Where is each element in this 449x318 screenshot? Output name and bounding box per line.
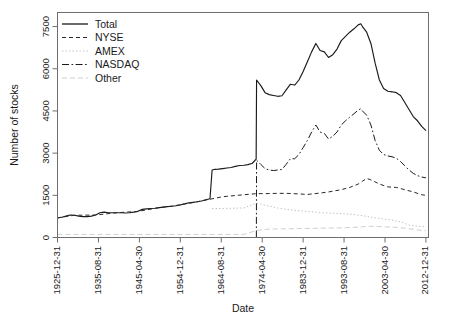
series-amex: [212, 203, 426, 227]
x-axis: 1925-12-311935-08-311945-04-301954-12-31…: [51, 238, 430, 295]
x-tick-label: 1954-12-31: [174, 246, 185, 295]
chart-figure: 015003000450060007500 1925-12-311935-08-…: [0, 0, 449, 318]
x-axis-title: Date: [232, 302, 254, 314]
y-axis-title: Number of stocks: [8, 84, 20, 166]
y-tick-label: 7500: [40, 16, 51, 37]
x-tick-label: 1925-12-31: [51, 246, 62, 295]
legend-label-nasdaq: NASDAQ: [95, 58, 139, 70]
legend-label-other: Other: [95, 72, 122, 84]
x-tick-label: 1974-04-30: [256, 246, 267, 295]
x-tick-label: 1993-08-31: [338, 246, 349, 295]
legend-label-nyse: NYSE: [95, 31, 124, 43]
x-tick-label: 2012-12-31: [419, 246, 430, 295]
y-tick-label: 3000: [40, 143, 51, 164]
x-tick-label: 1964-08-31: [215, 246, 226, 295]
x-tick-label: 1983-12-31: [297, 246, 308, 295]
x-tick-label: 1945-04-30: [133, 246, 144, 295]
series-nyse: [58, 178, 426, 217]
series-other: [58, 226, 426, 234]
y-tick-label: 4500: [40, 100, 51, 121]
x-tick-label: 1935-08-31: [92, 246, 103, 295]
legend-label-amex: AMEX: [95, 45, 125, 57]
y-tick-label: 0: [40, 235, 51, 240]
series-nasdaq: [256, 109, 426, 238]
y-tick-label: 6000: [40, 58, 51, 79]
chart-legend: TotalNYSEAMEXNASDAQOther: [62, 18, 139, 84]
stocks-line-chart: 015003000450060007500 1925-12-311935-08-…: [0, 0, 449, 318]
x-tick-label: 2003-04-30: [379, 246, 390, 295]
y-axis: 015003000450060007500: [40, 16, 58, 240]
y-tick-label: 1500: [40, 185, 51, 206]
legend-label-total: Total: [95, 18, 117, 30]
